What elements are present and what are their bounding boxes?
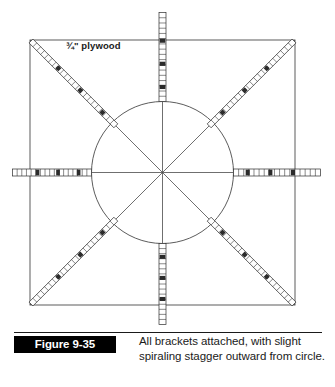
bracket-northeast xyxy=(207,39,296,128)
bracket-south-fastener xyxy=(160,255,166,259)
bracket-west xyxy=(13,169,92,176)
bracket-east-fastener xyxy=(291,170,295,176)
bracket-north xyxy=(159,13,166,102)
bracket-west-fastener xyxy=(56,170,60,176)
bracket-southwest xyxy=(29,217,118,306)
bracket-east xyxy=(234,169,321,176)
bracket-north-fastener xyxy=(160,62,166,66)
plywood-thickness-label: ¾" plywood xyxy=(66,40,121,51)
caption-divider xyxy=(14,332,322,333)
figure-number-badge: Figure 9-35 xyxy=(14,336,116,353)
bracket-east-fastener xyxy=(268,170,272,176)
figure-caption-text: All brackets attached, with slight spira… xyxy=(139,334,335,364)
bracket-south-fastener xyxy=(160,297,166,301)
bracket-west-fastener xyxy=(36,170,40,176)
bracket-north-fastener xyxy=(160,39,166,43)
bracket-west-fastener xyxy=(77,170,81,176)
plywood-bracket-diagram xyxy=(0,0,335,330)
bracket-south-fastener xyxy=(160,276,166,280)
bracket-northwest xyxy=(29,39,118,128)
figure-container: ¾" plywood Figure 9-35 All brackets atta… xyxy=(0,0,335,387)
bracket-south xyxy=(159,244,166,325)
bracket-north-fastener xyxy=(160,85,166,89)
bracket-east-fastener xyxy=(246,170,250,176)
bracket-southeast xyxy=(207,217,296,306)
